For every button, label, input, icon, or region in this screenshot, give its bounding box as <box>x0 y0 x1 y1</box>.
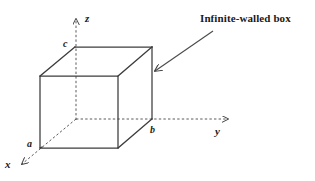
vertex-label-c: c <box>63 38 68 49</box>
cube-edge-top-right-oblique <box>118 47 152 76</box>
cube-edge-bottom-right-oblique <box>118 119 152 148</box>
annotation-arrow <box>155 31 213 71</box>
figure-canvas: c b a z y x Infinite-walled box <box>0 0 315 181</box>
cube-edge-top-left-oblique <box>40 47 75 76</box>
vertex-label-a: a <box>27 138 32 149</box>
axis-label-z: z <box>84 12 90 24</box>
axis-label-x: x <box>4 158 11 170</box>
axis-label-y: y <box>213 125 220 137</box>
vertex-label-b: b <box>150 124 155 135</box>
annotation-label-infinite-walled-box: Infinite-walled box <box>200 12 291 24</box>
physics-figure-infinite-walled-box: c b a z y x Infinite-walled box <box>0 0 315 181</box>
cube-front-face <box>40 76 118 148</box>
infinite-walled-box-cube <box>40 47 152 148</box>
